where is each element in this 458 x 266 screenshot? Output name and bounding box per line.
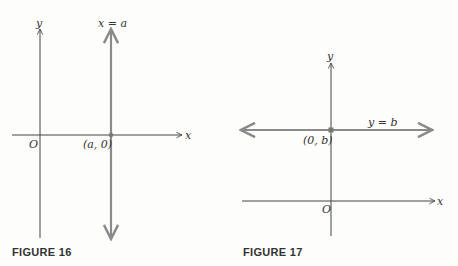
figure-17: y y = b x O (0, b) FIGURE 17 — [241, 50, 444, 258]
point-label: (a, 0) — [83, 138, 112, 151]
origin-label: O — [322, 203, 331, 216]
y-axis-label: y — [326, 50, 334, 63]
point-0-b — [329, 128, 334, 133]
x-axis-label: x — [437, 195, 444, 208]
y-axis-label: y — [35, 17, 43, 30]
line-equation-label: y = b — [367, 116, 397, 129]
point-a-0 — [109, 133, 113, 137]
figure-caption: FIGURE 16 — [12, 246, 72, 258]
figures-canvas: y x = a x O (a, 0) FIGURE 16 y y = b x O… — [0, 0, 458, 266]
figure-caption: FIGURE 17 — [243, 246, 303, 258]
x-axis-label: x — [185, 129, 192, 142]
origin-label: O — [29, 138, 38, 151]
point-label: (0, b) — [303, 134, 333, 147]
line-equation-label: x = a — [98, 17, 127, 30]
figure-16: y x = a x O (a, 0) FIGURE 16 — [12, 17, 192, 258]
